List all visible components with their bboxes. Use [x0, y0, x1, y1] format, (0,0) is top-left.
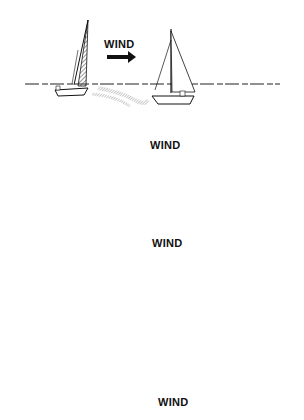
sailboat: [55, 20, 88, 96]
wind-arrow-right-icon: [107, 51, 136, 63]
wind-label: WIND: [152, 237, 183, 249]
wind-label: WIND: [150, 139, 181, 151]
sailing-illustration: [0, 0, 304, 420]
wind-label: WIND: [104, 38, 135, 50]
panel-1: [25, 20, 280, 106]
wind-label: WIND: [158, 396, 189, 408]
sailboat: [152, 29, 195, 104]
